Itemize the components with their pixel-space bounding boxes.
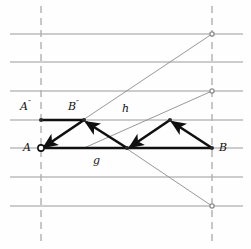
label-g: g [93,155,100,166]
arrow-B-to-R [172,122,212,148]
point-marker-a2 [39,118,43,122]
point-marker-m [125,146,129,150]
bold-vector-segments [41,120,212,148]
arrow-R-to-M [130,120,170,147]
geometry-figure: A″B″hABg [0,0,251,249]
label-B: B [219,142,227,153]
point-marker-a [38,145,44,151]
label-B-double-prime: B″ [68,101,79,112]
label-A-double-prime: A″ [20,101,31,112]
point-marker-p_bottom [210,204,214,208]
point-marker-p_mid [210,89,214,93]
point-marker-b [210,146,214,150]
point-marker-p_top [210,32,214,36]
point-marker-b2 [82,118,86,122]
label-h: h [122,103,129,114]
arrow-B2-to-A [44,120,84,147]
diagram-canvas [0,0,251,249]
label-A: A [23,142,31,153]
point-marker-r [168,118,172,122]
